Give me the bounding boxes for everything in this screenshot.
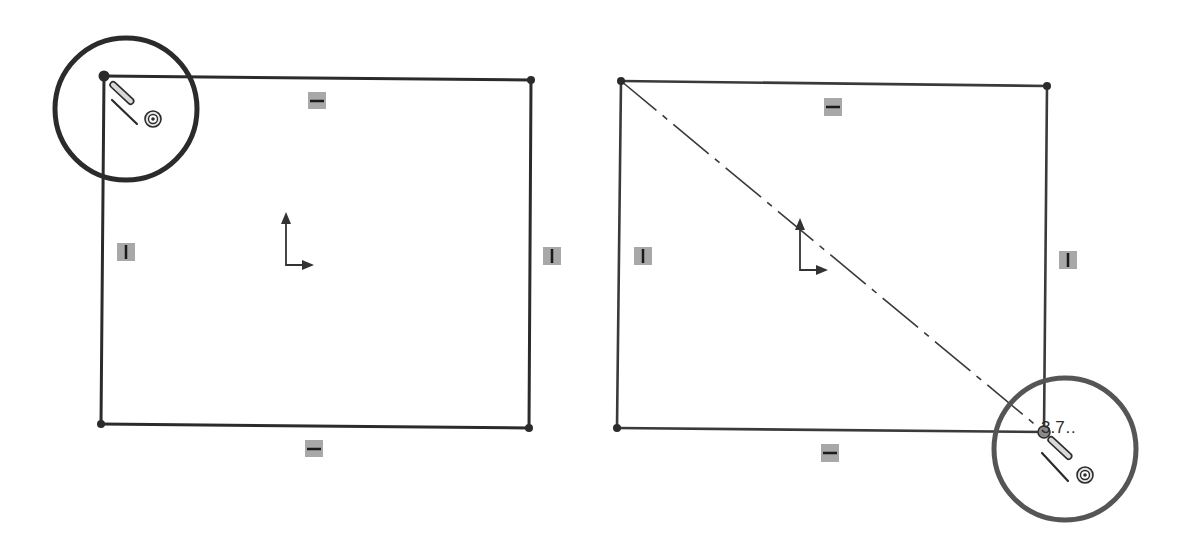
left-vertex-bottom-right[interactable] [525,424,533,432]
rectangle-cursor-icon [1042,436,1093,483]
right-rect-left-edge[interactable] [617,81,621,428]
rectangle-cursor-icon [109,81,161,127]
horizontal-relation-icon[interactable] [305,440,323,457]
right-panel [613,77,1136,520]
sketch-canvas [0,0,1185,549]
left-rect-left-edge[interactable] [101,76,104,424]
vertical-relation-icon[interactable] [117,243,135,261]
right-vertex-bottom-left[interactable] [613,424,621,432]
left-vertex-bottom-left[interactable] [97,420,105,428]
left-rect-top-edge[interactable] [104,76,531,80]
right-rect-top-edge[interactable] [621,81,1047,86]
origin-icon [795,218,828,275]
left-rect-right-edge[interactable] [529,80,531,428]
horizontal-relation-icon[interactable] [824,98,842,116]
left-vertex-top-left[interactable] [99,71,110,82]
right-vertex-top-right[interactable] [1043,82,1051,90]
left-vertex-top-right[interactable] [527,76,535,84]
horizontal-relation-icon[interactable] [308,92,326,109]
horizontal-relation-icon[interactable] [821,444,839,462]
vertical-relation-icon[interactable] [543,247,561,265]
diagonal-centerline[interactable] [621,81,1044,432]
left-panel [55,38,561,457]
vertical-relation-icon[interactable] [634,247,652,265]
right-vertex-top-left[interactable] [617,77,625,85]
right-rect-bottom-edge[interactable] [617,428,1044,432]
dimension-readout: 3.7… [1041,418,1075,438]
left-rect-bottom-edge[interactable] [101,424,529,428]
vertical-relation-icon[interactable] [1059,251,1077,269]
origin-icon [281,212,314,270]
start-corner-highlight-circle [55,38,197,180]
